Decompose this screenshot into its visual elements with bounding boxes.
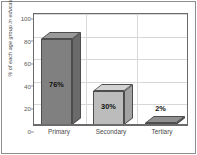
x-axis-label-primary: Primary [33, 128, 85, 135]
x-axis-baseline [34, 124, 187, 125]
y-axis-tick-60: 60 [11, 60, 31, 67]
bar-value-label: 76% [41, 80, 72, 89]
y-axis-tick-80: 80 [11, 37, 31, 44]
x-axis-label-secondary: Secondary [85, 128, 137, 135]
plot-area: 76%30%2% [33, 13, 188, 126]
bar-chart: % of each age group in education 0204060… [0, 0, 197, 155]
x-axis-label-tertiary: Tertiary [136, 128, 188, 135]
bar-value-label: 2% [145, 104, 176, 113]
y-axis-tick-40: 40 [11, 82, 31, 89]
y-axis-tick-20: 20 [11, 105, 31, 112]
bars-layer: 76%30%2% [34, 14, 187, 125]
y-axis-tick-100: 100 [11, 15, 31, 22]
bar-primary[interactable] [41, 32, 72, 125]
bar-side-face [72, 32, 81, 125]
bar-value-label: 30% [93, 102, 124, 111]
bar-side-face [124, 84, 133, 125]
y-axis-tick-labels: 020406080100 [11, 18, 31, 126]
y-axis-tick-0: 0 [11, 128, 31, 135]
x-axis-tick-labels: PrimarySecondaryTertiary [33, 128, 188, 142]
